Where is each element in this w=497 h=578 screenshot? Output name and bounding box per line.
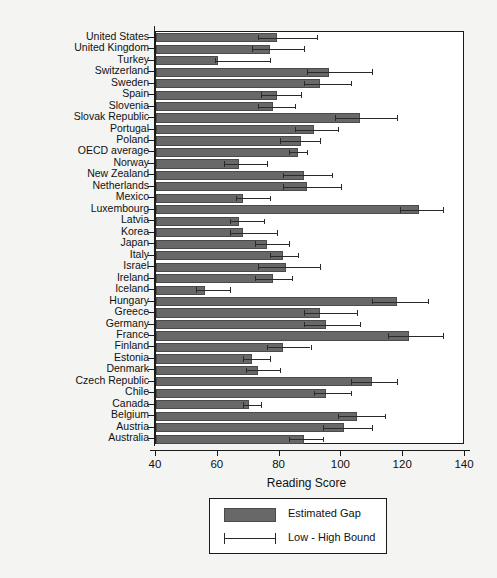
x-axis-tick-label: 60	[210, 458, 223, 470]
y-axis-label-italy: Italy	[130, 249, 149, 260]
bar-luxembourg	[156, 205, 419, 214]
errorbar-cap-low	[304, 81, 305, 87]
errorbar-oecd-average	[289, 152, 308, 153]
bar-spain	[156, 91, 277, 100]
x-tick	[217, 450, 218, 456]
bar-switzerland	[156, 68, 329, 77]
bar-mexico	[156, 194, 243, 203]
errorbar-cap-low	[372, 299, 373, 305]
errorbar-cap-high	[320, 138, 321, 144]
errorbar-cap-high	[385, 414, 386, 420]
errorbar-canada	[243, 405, 262, 406]
bar-chile	[156, 389, 326, 398]
errorbar-cap-low	[230, 230, 231, 236]
errorbar-cap-low	[255, 276, 256, 282]
errorbar-united-states	[258, 38, 317, 39]
errorbar-greece	[304, 313, 357, 314]
errorbar-israel	[258, 267, 320, 268]
legend-swatch-estimated-gap	[224, 508, 276, 522]
errorbar-cap-low	[258, 35, 259, 41]
y-axis-label-ireland: Ireland	[117, 272, 149, 283]
errorbar-cap-low	[252, 46, 253, 52]
errorbar-cap-low	[295, 127, 296, 133]
x-axis-line	[150, 450, 470, 451]
errorbar-switzerland	[307, 72, 372, 73]
y-axis-label-luxembourg: Luxembourg	[91, 203, 149, 214]
errorbar-korea	[230, 233, 276, 234]
errorbar-cap-low	[224, 161, 225, 167]
bar-germany	[156, 320, 326, 329]
y-axis-label-greece: Greece	[115, 306, 149, 317]
y-axis-label-belgium: Belgium	[111, 409, 149, 420]
errorbar-cap-low	[351, 379, 352, 385]
errorbar-cap-low	[289, 150, 290, 156]
x-axis-tick-label: 140	[454, 458, 473, 470]
errorbar-cap-low	[270, 253, 271, 259]
legend-item-estimated-gap: Estimated Gap	[210, 503, 386, 525]
errorbar-cap-high	[320, 264, 321, 270]
errorbar-new-zealand	[283, 175, 332, 176]
errorbar-cap-low	[388, 333, 389, 339]
y-axis-label-turkey: Turkey	[117, 54, 149, 65]
x-tick	[464, 450, 465, 456]
errorbar-cap-low	[323, 425, 324, 431]
errorbar-cap-low	[215, 58, 216, 64]
errorbar-cap-low	[280, 138, 281, 144]
errorbar-slovak-republic	[335, 118, 397, 119]
y-axis-label-united-states: United States	[86, 31, 149, 42]
errorbar-norway	[224, 164, 267, 165]
errorbar-sweden	[304, 84, 350, 85]
x-axis-title-label: Reading Score	[267, 476, 346, 490]
errorbar-cap-low	[258, 264, 259, 270]
y-axis-label-norway: Norway	[113, 157, 149, 168]
y-axis-line	[154, 26, 155, 446]
errorbar-estonia	[243, 359, 271, 360]
errorbar-cap-low	[307, 69, 308, 75]
errorbar-cap-high	[338, 127, 339, 133]
errorbar-germany	[304, 325, 360, 326]
errorbar-cap-high	[277, 230, 278, 236]
errorbar-denmark	[246, 370, 280, 371]
y-axis-label-spain: Spain	[122, 88, 149, 99]
errorbar-cap-high	[443, 207, 444, 213]
y-axis-label-finland: Finland	[115, 340, 149, 351]
errorbar-austria	[323, 428, 372, 429]
bar-france	[156, 331, 409, 340]
errorbar-cap-low	[267, 345, 268, 351]
y-axis-label-czech-republic: Czech Republic	[75, 375, 149, 386]
errorbar-cap-high	[360, 322, 361, 328]
errorbar-cap-low	[283, 184, 284, 190]
y-axis-label-slovenia: Slovenia	[109, 100, 149, 111]
errorbar-portugal	[295, 130, 338, 131]
errorbar-mexico	[236, 198, 270, 199]
errorbar-cap-high	[292, 276, 293, 282]
errorbar-cap-high	[443, 333, 444, 339]
chart-legend: Estimated Gap Low - High Bound	[209, 498, 387, 554]
y-axis-label-korea: Korea	[121, 226, 149, 237]
errorbar-hungary	[372, 302, 428, 303]
bar-australia	[156, 435, 304, 444]
y-axis-label-israel: Israel	[123, 260, 149, 271]
y-axis-label-slovak-republic: Slovak Republic	[74, 111, 149, 122]
errorbar-slovenia	[258, 107, 295, 108]
errorbar-czech-republic	[351, 382, 397, 383]
errorbar-cap-low	[258, 104, 259, 110]
y-axis-label-japan: Japan	[120, 237, 149, 248]
errorbar-cap-high	[372, 425, 373, 431]
errorbar-cap-high	[280, 368, 281, 374]
bar-sweden	[156, 79, 320, 88]
x-axis-tick-label: 100	[331, 458, 350, 470]
bar-canada	[156, 400, 249, 409]
x-tick	[340, 450, 341, 456]
y-axis-label-switzerland: Switzerland	[95, 65, 149, 76]
errorbar-cap-low	[304, 310, 305, 316]
bar-slovenia	[156, 102, 273, 111]
bar-turkey	[156, 56, 218, 65]
bar-austria	[156, 423, 344, 432]
bar-greece	[156, 308, 320, 317]
y-axis-label-germany: Germany	[106, 318, 149, 329]
errorbar-cap-high	[270, 196, 271, 202]
bar-hungary	[156, 297, 397, 306]
x-axis-tick-label: 40	[149, 458, 162, 470]
errorbar-france	[388, 336, 444, 337]
